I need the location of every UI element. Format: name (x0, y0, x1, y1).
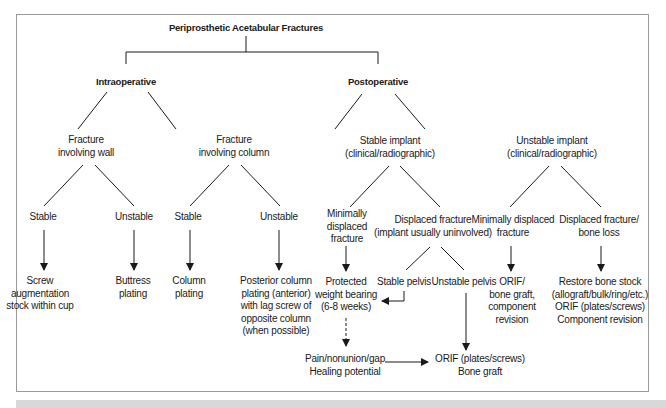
stable-implant-node: Stable implant (clinical/radiographic) (345, 135, 435, 160)
column-stable-node: Stable (174, 211, 201, 224)
root-title: Periprosthetic Acetabular Fractures (169, 22, 323, 35)
buttress-plating-treatment: Buttress plating (115, 275, 150, 300)
unstable-displaced-node: Displaced fracture/ bone loss (559, 214, 639, 239)
posterior-column-treatment: Posterior column plating (anterior) with… (240, 275, 312, 338)
wall-unstable-node: Unstable (115, 211, 153, 224)
stable-pelvis-node: Stable pelvis (377, 276, 431, 289)
column-fracture-node: Fracture involving column (199, 134, 270, 159)
column-unstable-node: Unstable (260, 211, 298, 224)
unstable-pelvis-node: Unstable pelvis (432, 276, 497, 289)
unstable-implant-node: Unstable implant (clinical/radiographic) (507, 135, 597, 160)
orif-plates-screws-treatment: ORIF (plates/screws) Bone graft (435, 353, 525, 378)
wall-stable-node: Stable (29, 211, 56, 224)
postoperative-node: Postoperative (348, 76, 408, 89)
stable-min-displaced-node: Minimally displaced fracture (327, 208, 367, 246)
protected-weight-bearing-treatment: Protected weight bearing (6-8 weeks) (315, 276, 377, 314)
restore-bone-stock-treatment: Restore bone stock (allograft/bulk/ring/… (552, 276, 649, 326)
column-plating-treatment: Column plating (172, 275, 205, 300)
wall-fracture-node: Fracture involving wall (58, 134, 114, 159)
intraoperative-node: Intraoperative (96, 76, 156, 89)
pain-nonunion-node: Pain/nonunion/gap Healing potential (305, 353, 385, 378)
orif-bone-graft-revision-treatment: ORIF/ bone graft, component revision (488, 276, 536, 326)
unstable-min-displaced-node: Minimally displaced fracture (472, 214, 555, 239)
screw-augmentation-treatment: Screw augmentation stock within cup (6, 275, 73, 313)
